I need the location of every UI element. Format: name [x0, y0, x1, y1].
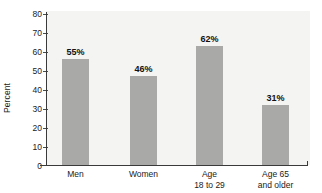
bar-value-label-age-65-and-older: 31%: [255, 93, 296, 103]
bar-value-label-age-18-to-29: 62%: [189, 34, 230, 44]
y-tick-label-60: 60: [22, 48, 42, 57]
y-tick-label-0: 0: [22, 162, 42, 171]
bar-age-65-and-older: [262, 105, 289, 165]
y-tick-label-50: 50: [22, 67, 42, 76]
x-category-label-women-line1: Women: [129, 169, 158, 179]
x-axis-line: [40, 165, 308, 166]
bar-men: [62, 59, 89, 165]
y-tick-label-20: 20: [22, 124, 42, 133]
y-axis-line: [46, 12, 47, 166]
bar-age-18-to-29: [196, 46, 223, 165]
x-category-label-age-18-to-29-line2: 18 to 29: [184, 180, 235, 191]
x-category-label-men-line1: Men: [67, 169, 84, 179]
bar-value-label-men: 55%: [55, 47, 96, 57]
y-tick-label-80: 80: [22, 10, 42, 19]
x-category-label-age-18-to-29: Age 18 to 29: [184, 169, 235, 190]
x-category-label-men: Men: [50, 169, 101, 180]
bar-value-label-women: 46%: [123, 64, 164, 74]
bar-chart: Percent 80 70 60 50 40 30 20 10 0 55% 46…: [0, 0, 322, 193]
y-tick-label-40: 40: [22, 86, 42, 95]
x-category-label-age-65-and-older: Age 65 and older: [250, 169, 301, 190]
bar-women: [130, 76, 157, 165]
x-category-label-age-65-and-older-line2: and older: [250, 180, 301, 191]
y-axis-title: Percent: [2, 58, 16, 138]
x-axis-end-tick: [307, 161, 308, 166]
y-axis-tick-labels: 80 70 60 50 40 30 20 10 0: [22, 10, 42, 166]
y-tick-label-70: 70: [22, 29, 42, 38]
y-tick-label-30: 30: [22, 105, 42, 114]
y-tick-label-10: 10: [22, 143, 42, 152]
x-category-label-age-18-to-29-line1: Age: [202, 169, 217, 179]
x-category-label-age-65-and-older-line1: Age 65: [262, 169, 289, 179]
x-category-label-women: Women: [118, 169, 169, 180]
